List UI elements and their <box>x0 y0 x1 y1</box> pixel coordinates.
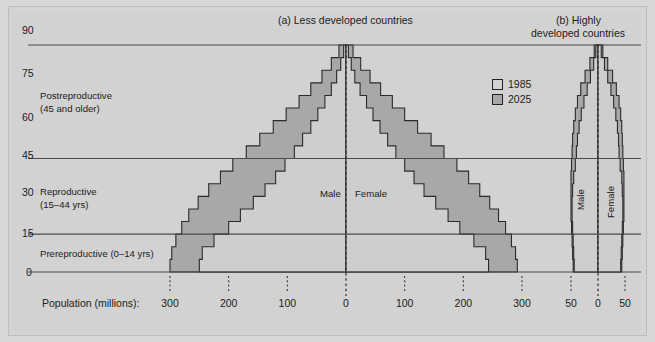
figure-container: (a) Less developed countries (b) Highly … <box>0 0 655 342</box>
population-pyramid-chart <box>0 0 655 342</box>
